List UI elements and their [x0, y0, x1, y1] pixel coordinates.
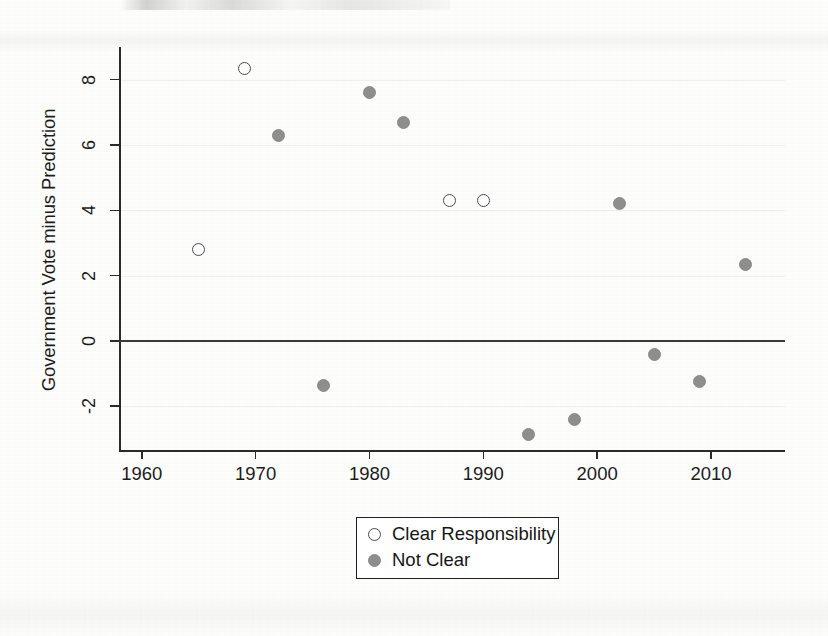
- data-point: [272, 129, 285, 142]
- data-point: [613, 197, 626, 210]
- y-axis-title-wrapper: Government Vote minus Prediction: [36, 60, 62, 440]
- y-axis-tick: [110, 79, 119, 81]
- x-axis-tick: [255, 450, 257, 459]
- y-axis-tick: [110, 405, 119, 407]
- gridline: [119, 406, 785, 407]
- data-point: [568, 413, 581, 426]
- x-axis-tick-label: 1960: [107, 463, 177, 485]
- data-point: [443, 194, 456, 207]
- y-axis-title: Government Vote minus Prediction: [36, 50, 62, 450]
- x-axis-tick-label: 1970: [221, 463, 291, 485]
- x-axis-tick-label: 2010: [676, 463, 746, 485]
- data-point: [477, 194, 490, 207]
- x-axis-line: [119, 450, 785, 452]
- y-axis-tick: [110, 210, 119, 212]
- legend-item-label: Clear Responsibility: [392, 523, 555, 545]
- data-point: [648, 348, 661, 361]
- data-point: [522, 428, 535, 441]
- gridline: [119, 80, 785, 81]
- legend-item[interactable]: Not Clear: [368, 547, 470, 573]
- x-axis-tick-label: 1990: [448, 463, 518, 485]
- y-axis-tick: [110, 275, 119, 277]
- data-point: [192, 243, 205, 256]
- y-axis-line: [119, 47, 121, 452]
- data-point: [397, 116, 410, 129]
- x-axis-tick: [483, 450, 485, 459]
- open-circle-marker-icon: [368, 528, 381, 541]
- scatter-plot-figure: Government Vote minus Prediction -202468…: [0, 0, 828, 636]
- y-axis-tick-label: 8: [79, 64, 99, 96]
- plot-area: -202468 196019701980199020002010: [119, 47, 785, 452]
- y-axis-tick: [110, 144, 119, 146]
- x-axis-tick: [596, 450, 598, 459]
- filled-circle-marker-icon: [368, 554, 381, 567]
- data-point: [693, 375, 706, 388]
- data-point: [238, 62, 251, 75]
- y-axis-tick: [110, 340, 119, 342]
- zero-reference-line: [119, 340, 785, 342]
- y-axis-tick-label: 6: [79, 129, 99, 161]
- y-axis-tick-label: -2: [79, 390, 99, 422]
- y-axis-tick-label: 2: [79, 260, 99, 292]
- gridline: [119, 210, 785, 211]
- gridline: [119, 145, 785, 146]
- gridline: [119, 276, 785, 277]
- x-axis-tick-label: 2000: [562, 463, 632, 485]
- x-axis-tick: [710, 450, 712, 459]
- y-axis-tick-label: 0: [79, 325, 99, 357]
- data-point: [317, 379, 330, 392]
- chart-legend: Clear ResponsibilityNot Clear: [356, 517, 559, 579]
- legend-item[interactable]: Clear Responsibility: [368, 521, 555, 547]
- legend-item-label: Not Clear: [392, 549, 470, 571]
- data-point: [363, 86, 376, 99]
- x-axis-tick: [369, 450, 371, 459]
- data-point: [739, 258, 752, 271]
- y-axis-tick-label: 4: [79, 194, 99, 226]
- x-axis-tick: [141, 450, 143, 459]
- x-axis-tick-label: 1980: [334, 463, 404, 485]
